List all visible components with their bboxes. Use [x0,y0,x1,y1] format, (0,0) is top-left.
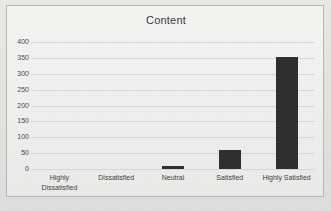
x-category-label: Neutral [145,172,202,197]
x-category-label: Dissatisfied [88,172,145,197]
x-category-label: Highly Satisfied [258,172,315,197]
gridline-150 [31,121,315,122]
x-category-label-line: Neutral [145,173,202,183]
chart-title: Content [7,14,324,26]
y-tick-label: 200 [7,102,29,109]
x-axis-category-labels: HighlyDissatisfiedDissatisfiedNeutralSat… [31,172,315,197]
bar-neutral [162,166,184,169]
y-tick-label: 350 [7,54,29,61]
y-tick-label: 0 [7,165,29,172]
y-tick-label: 250 [7,86,29,93]
x-category-label-line: Highly [31,173,88,183]
x-category-label: HighlyDissatisfied [31,172,88,197]
chart-frame: Content 400350300250200150100500 HighlyD… [6,5,324,197]
bar-highly-satisfied [276,57,298,169]
bar-satisfied [219,150,241,169]
y-axis-tick-labels: 400350300250200150100500 [7,42,29,169]
gridline-100 [31,137,315,138]
y-tick-label: 100 [7,133,29,140]
x-category-label-line: Dissatisfied [31,183,88,193]
gridline-50 [31,153,315,154]
y-tick-label: 400 [7,38,29,45]
gridline-200 [31,106,315,107]
x-category-label-line: Dissatisfied [88,173,145,183]
y-tick-label: 50 [7,149,29,156]
x-category-label: Satisfied [201,172,258,197]
plot-area [31,42,315,169]
y-tick-label: 300 [7,70,29,77]
gridline-250 [31,90,315,91]
gridline-300 [31,74,315,75]
y-tick-label: 150 [7,117,29,124]
gridline-400 [31,42,315,43]
x-category-label-line: Satisfied [201,173,258,183]
gridline-350 [31,58,315,59]
x-category-label-line: Highly Satisfied [258,173,315,183]
gridline-0 [31,169,315,170]
